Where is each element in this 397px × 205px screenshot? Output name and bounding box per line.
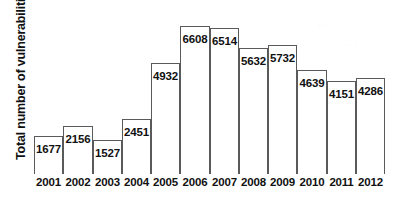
x-label-2011: 2011 <box>327 176 356 188</box>
bar-2011: 4151 <box>327 81 356 174</box>
x-label-2001: 2001 <box>34 176 63 188</box>
x-label-2004: 2004 <box>122 176 151 188</box>
bar-2008: 5632 <box>239 48 268 174</box>
x-label-2012: 2012 <box>356 176 385 188</box>
x-label-2008: 2008 <box>239 176 268 188</box>
x-label-2006: 2006 <box>180 176 210 188</box>
x-label-2002: 2002 <box>63 176 93 188</box>
bar-value-label: 1677 <box>35 143 62 155</box>
bar-2012: 4286 <box>356 78 385 174</box>
x-label-2007: 2007 <box>210 176 239 188</box>
bar-value-label: 2156 <box>64 133 92 145</box>
y-axis-title: Total number of vulnerabilities <box>14 0 28 160</box>
bar-value-label: 5732 <box>269 52 296 64</box>
plot-area: 1677215615272451493266086514563257324639… <box>34 8 385 174</box>
bar-value-label: 4639 <box>298 77 326 89</box>
bar-2001: 1677 <box>34 136 63 174</box>
bar-value-label: 4286 <box>357 85 384 97</box>
bar-value-label: 1527 <box>94 147 121 159</box>
bar-value-label: 5632 <box>240 55 267 67</box>
bar-chart: Total number of vulnerabilities 16772156… <box>0 0 397 205</box>
x-label-2009: 2009 <box>268 176 297 188</box>
bar-2006: 6608 <box>180 26 210 174</box>
bar-2002: 2156 <box>63 126 93 174</box>
bar-2003: 1527 <box>93 140 122 174</box>
x-label-2003: 2003 <box>93 176 122 188</box>
bar-value-label: 4151 <box>328 88 355 100</box>
bar-value-label: 2451 <box>123 126 150 138</box>
bar-2010: 4639 <box>297 70 327 174</box>
x-label-2005: 2005 <box>151 176 180 188</box>
bar-value-label: 6514 <box>211 35 238 47</box>
x-axis-tick-labels: 2001200220032004200520062007200820092010… <box>34 176 385 194</box>
bar-value-label: 6608 <box>181 33 209 45</box>
bar-2005: 4932 <box>151 63 180 174</box>
bar-2004: 2451 <box>122 119 151 174</box>
x-label-2010: 2010 <box>297 176 327 188</box>
bar-value-label: 4932 <box>152 70 179 82</box>
bar-2007: 6514 <box>210 28 239 174</box>
bar-2009: 5732 <box>268 45 297 174</box>
